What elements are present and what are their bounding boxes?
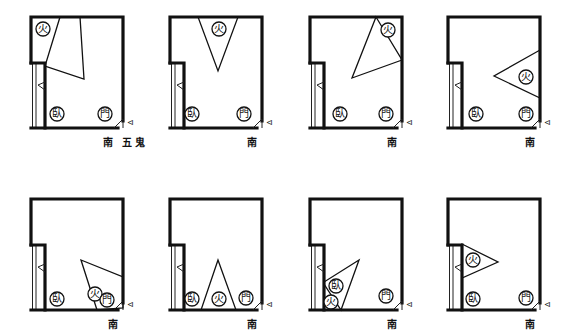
door-glyph: 門: [379, 289, 393, 303]
floor-plan-panel-1: 火臥門⊲南 五鬼: [30, 16, 160, 156]
door-mark-icon: ⊲: [406, 300, 413, 309]
room-wall-notch: [310, 63, 324, 128]
floor-plan-panel-8: 火臥門⊲南: [447, 198, 575, 332]
door-mark-icon: ⊲: [266, 118, 273, 127]
door-mark-icon: ⊲: [406, 118, 413, 127]
panel-caption: 南: [525, 316, 538, 331]
bed-glyph: 臥: [333, 107, 347, 121]
door-mark-icon: ⊲: [544, 118, 551, 127]
door-mark-icon: ⊲: [127, 300, 134, 309]
room-wall-notch: [31, 245, 45, 310]
fire-glyph: 火: [381, 23, 395, 37]
room-wall-notch: [170, 245, 184, 310]
room-wall-notch: [448, 245, 462, 310]
panel-caption: 南: [387, 316, 400, 331]
floor-plan-panel-4: 火臥門⊲南: [447, 16, 575, 156]
fire-glyph: 火: [466, 253, 480, 267]
fire-glyph: 火: [519, 70, 533, 84]
room-drawing: [30, 198, 160, 332]
room-wall-notch: [170, 63, 184, 128]
panel-caption: 南: [108, 316, 121, 331]
room-drawing: [169, 16, 299, 156]
door-mark-icon: ⊲: [544, 300, 551, 309]
door-glyph: 門: [98, 107, 112, 121]
floor-plan-panel-5: 火臥門⊲南: [30, 198, 160, 332]
floor-plan-grid: 火臥門⊲南 五鬼 火臥門⊲南: [0, 0, 575, 332]
bed-glyph: 臥: [469, 107, 483, 121]
door-mark-icon: ⊲: [266, 300, 273, 309]
panel-caption: 南: [247, 134, 260, 149]
fire-sector: [494, 50, 540, 98]
fire-glyph: 火: [36, 22, 50, 36]
floor-plan-panel-3: 火臥門⊲南: [309, 16, 439, 156]
floor-plan-panel-7: 火臥門⊲南: [309, 198, 439, 332]
bed-glyph: 臥: [466, 292, 480, 306]
panel-caption: 南: [247, 316, 260, 331]
door-glyph: 門: [237, 107, 251, 121]
fire-sector-triangle: [45, 17, 84, 79]
panel-caption: 南 五鬼: [103, 134, 148, 149]
bed-glyph: 臥: [185, 292, 199, 306]
panel-caption: 南: [525, 134, 538, 149]
door-glyph: 門: [519, 291, 533, 305]
door-glyph: 門: [519, 107, 533, 121]
bed-glyph: 臥: [329, 279, 343, 293]
room-drawing: [309, 198, 439, 332]
room-wall-notch: [310, 245, 324, 310]
fire-glyph: 火: [324, 295, 338, 309]
fire-glyph: 火: [212, 292, 226, 306]
room-wall-notch: [448, 63, 462, 128]
room-drawing: [169, 198, 299, 332]
room-wall-notch: [31, 63, 45, 128]
fire-sector: [45, 17, 84, 79]
fire-sector-triangle: [494, 50, 540, 98]
room-drawing: [447, 16, 575, 156]
door-glyph: 門: [100, 293, 114, 307]
panel-caption: 南: [387, 134, 400, 149]
fire-glyph: 火: [212, 22, 226, 36]
floor-plan-panel-6: 火臥門⊲南: [169, 198, 299, 332]
room-drawing: [309, 16, 439, 156]
bed-glyph: 臥: [50, 292, 64, 306]
door-mark-icon: ⊲: [127, 118, 134, 127]
bed-glyph: 臥: [185, 107, 199, 121]
bed-glyph: 臥: [50, 107, 64, 121]
door-glyph: 門: [239, 291, 253, 305]
floor-plan-panel-2: 火臥門⊲南: [169, 16, 299, 156]
door-glyph: 門: [379, 107, 393, 121]
